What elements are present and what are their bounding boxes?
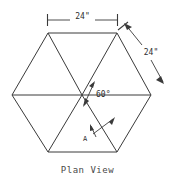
spoke-top-left — [48, 33, 82, 95]
central-angle-label: 60° — [96, 90, 110, 99]
top-dimension-label: 24" — [75, 12, 89, 21]
right-dimension-label: 24" — [144, 48, 158, 57]
section-label-annotation: A — [83, 117, 115, 143]
spoke-bottom-left — [48, 95, 82, 152]
right-dimension: 24" — [118, 22, 164, 84]
right-dimension-arrowhead-bottom — [156, 76, 164, 84]
spoke-top-right — [82, 33, 117, 95]
angle-arrowhead-upper — [89, 81, 95, 88]
right-dimension-arrowhead-top — [124, 23, 132, 30]
hexagon-internal-spokes — [12, 33, 151, 152]
hexagon-outline — [12, 33, 151, 152]
top-dimension: 24" — [48, 12, 118, 26]
plan-view-drawing: 24" 24" 60° A Pla — [0, 0, 175, 187]
hexagon-diagram-svg: 24" 24" 60° A — [0, 0, 175, 187]
section-label: A — [83, 135, 88, 143]
section-tick-arrowhead — [90, 124, 94, 131]
figure-caption: Plan View — [0, 165, 175, 175]
